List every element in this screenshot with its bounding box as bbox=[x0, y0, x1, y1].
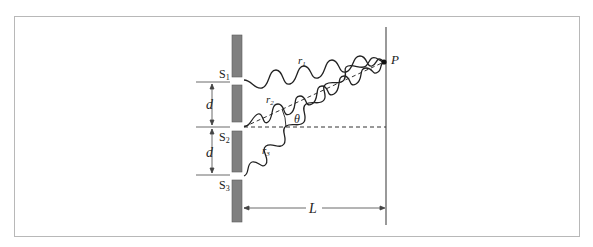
label-theta: θ bbox=[294, 112, 300, 126]
barrier-segment-lower-middle bbox=[232, 131, 242, 172]
barrier-segment-top bbox=[232, 35, 242, 77]
label-d-lower: d bbox=[206, 145, 214, 160]
label-p: P bbox=[390, 52, 399, 67]
label-l: L bbox=[308, 201, 317, 216]
label-d-upper: d bbox=[206, 97, 214, 112]
interference-diagram: S1 S2 S3 d d r1 r2 r3 θ P L bbox=[0, 0, 593, 247]
barrier-segment-bottom bbox=[232, 180, 242, 222]
point-p-dot bbox=[381, 59, 386, 64]
barrier-segment-upper-middle bbox=[232, 85, 242, 122]
